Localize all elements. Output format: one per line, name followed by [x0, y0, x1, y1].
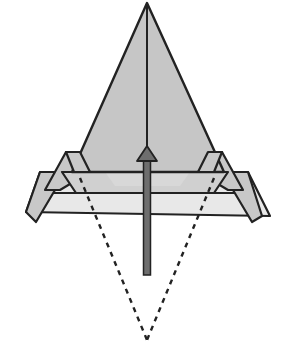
origami-diagram — [0, 0, 288, 344]
